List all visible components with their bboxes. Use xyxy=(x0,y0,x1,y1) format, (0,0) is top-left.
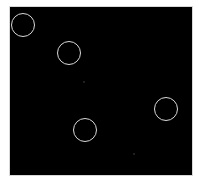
circle-2 xyxy=(57,41,81,65)
circle-3 xyxy=(154,97,178,121)
speck-1 xyxy=(83,81,85,83)
black-panel xyxy=(10,7,192,175)
circle-1 xyxy=(11,13,35,37)
circle-4 xyxy=(73,118,97,142)
speck-2 xyxy=(133,153,135,155)
